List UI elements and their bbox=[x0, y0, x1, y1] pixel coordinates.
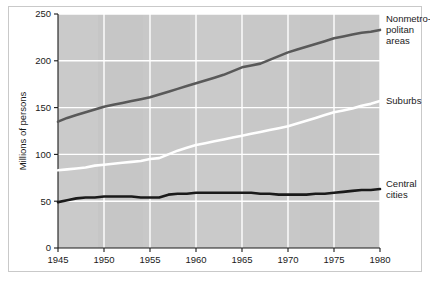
plot-texture-band-c bbox=[190, 14, 240, 248]
x-tick-label: 1960 bbox=[185, 254, 206, 265]
chart-figure: 050100150200250 194519501955196019651970… bbox=[0, 0, 430, 281]
series-annotation-central: cities bbox=[386, 189, 408, 200]
series-annotation-central: Central bbox=[386, 178, 417, 189]
x-tick-label: 1970 bbox=[277, 254, 298, 265]
plot-texture-band-b bbox=[98, 14, 143, 248]
y-tick-label: 100 bbox=[35, 149, 51, 160]
series-annotations: Nonmetro-politanareasSuburbsCentralcitie… bbox=[386, 13, 430, 200]
plot-background-group bbox=[58, 14, 380, 248]
y-axis-title: Millions of persons bbox=[17, 91, 28, 170]
x-tick-label: 1980 bbox=[369, 254, 390, 265]
x-axis-ticks: 19451950195519601965197019751980 bbox=[47, 248, 390, 265]
y-axis-ticks: 050100150200250 bbox=[35, 8, 58, 253]
plot-texture-band-a bbox=[58, 14, 98, 248]
y-axis-title-group: Millions of persons bbox=[17, 91, 28, 170]
x-tick-label: 1950 bbox=[93, 254, 114, 265]
y-tick-label: 50 bbox=[40, 196, 51, 207]
y-tick-label: 200 bbox=[35, 55, 51, 66]
y-tick-label: 250 bbox=[35, 8, 51, 19]
line-chart: 050100150200250 194519501955196019651970… bbox=[0, 0, 430, 281]
x-tick-label: 1955 bbox=[139, 254, 160, 265]
x-tick-label: 1975 bbox=[323, 254, 344, 265]
series-annotation-nonmetro: politan bbox=[386, 24, 414, 35]
x-tick-label: 1965 bbox=[231, 254, 252, 265]
series-annotation-suburbs: Suburbs bbox=[386, 95, 422, 106]
plot-texture-band-d bbox=[300, 14, 360, 248]
x-tick-label: 1945 bbox=[47, 254, 68, 265]
y-tick-label: 0 bbox=[46, 242, 51, 253]
y-tick-label: 150 bbox=[35, 102, 51, 113]
series-annotation-nonmetro: Nonmetro- bbox=[386, 13, 430, 24]
series-annotation-nonmetro: areas bbox=[386, 35, 410, 46]
